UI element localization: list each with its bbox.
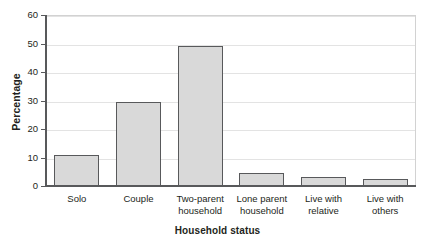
y-tick-label-50: 50 bbox=[18, 39, 38, 49]
x-tick-label: Lone parent household bbox=[231, 193, 293, 216]
y-tick-label-40: 40 bbox=[18, 67, 38, 77]
bar bbox=[301, 177, 346, 186]
bar-chart-figure: Percentage 0102030405060 SoloCoupleTwo-p… bbox=[0, 0, 435, 246]
gridline-50 bbox=[46, 45, 415, 46]
bar bbox=[54, 155, 99, 186]
x-tick-label: Live with others bbox=[354, 193, 416, 216]
y-tick-mark-10 bbox=[41, 158, 46, 159]
y-tick-label-60: 60 bbox=[18, 10, 38, 20]
gridline-60 bbox=[46, 16, 415, 17]
x-tick-label: Solo bbox=[46, 193, 108, 205]
y-tick-label-30: 30 bbox=[18, 96, 38, 106]
y-tick-mark-20 bbox=[41, 129, 46, 130]
y-tick-label-20: 20 bbox=[18, 124, 38, 134]
y-tick-label-10: 10 bbox=[18, 153, 38, 163]
y-tick-mark-50 bbox=[41, 44, 46, 45]
bar bbox=[239, 173, 284, 186]
x-axis-line bbox=[45, 185, 416, 187]
gridline-30 bbox=[46, 102, 415, 103]
y-tick-mark-40 bbox=[41, 72, 46, 73]
bar bbox=[178, 46, 223, 186]
gridline-10 bbox=[46, 159, 415, 160]
y-tick-label-0: 0 bbox=[18, 181, 38, 191]
plot-area bbox=[46, 15, 416, 186]
bar bbox=[116, 102, 161, 186]
gridline-40 bbox=[46, 73, 415, 74]
x-tick-label: Couple bbox=[108, 193, 170, 205]
y-tick-mark-30 bbox=[41, 101, 46, 102]
gridline-20 bbox=[46, 130, 415, 131]
y-tick-mark-0 bbox=[41, 186, 46, 187]
clipped-title-sliver bbox=[0, 0, 435, 6]
x-axis-title: Household status bbox=[0, 225, 435, 236]
bar bbox=[363, 179, 408, 186]
x-tick-label: Live with relative bbox=[293, 193, 355, 216]
y-tick-mark-60 bbox=[41, 15, 46, 16]
x-tick-label: Two-parent household bbox=[169, 193, 231, 216]
